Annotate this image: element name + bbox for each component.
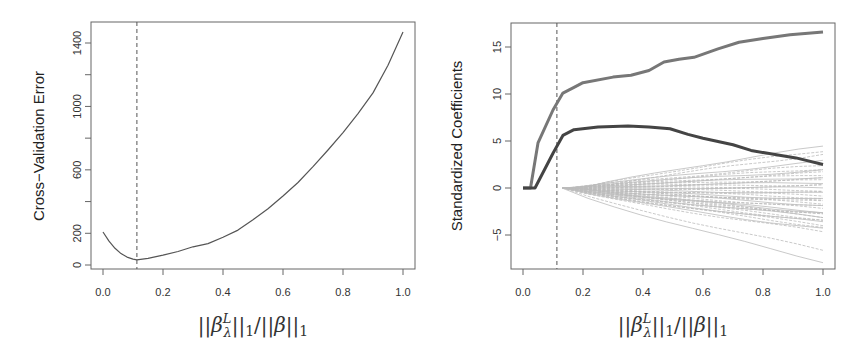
cv-error-panel: Cross−Validation Error 020060010001400 0… <box>30 22 415 340</box>
y-tick-label: 0 <box>491 185 503 191</box>
x-axis-math-label: ||βLλ||1/||β||1 <box>618 311 729 340</box>
x-tick-label: 0.2 <box>155 286 170 298</box>
y-tick-label: 15 <box>491 41 503 53</box>
x-tick-label: 1.0 <box>815 286 830 298</box>
figure: Cross−Validation Error 020060010001400 0… <box>0 0 857 358</box>
x-tick-label: 0.0 <box>515 286 530 298</box>
x-axis-left: 0.00.20.40.60.81.0 <box>95 269 410 298</box>
x-axis-title-right: ||βLλ||1/||β||1 <box>618 311 729 340</box>
x-axis-math-label: ||βLλ||1/||β||1 <box>198 311 309 340</box>
x-tick-label: 0.4 <box>215 286 230 298</box>
x-axis-title-left: ||βLλ||1/||β||1 <box>198 311 309 340</box>
x-tick-label: 0.6 <box>275 286 290 298</box>
x-tick-label: 0.2 <box>575 286 590 298</box>
y-tick-label: 0 <box>71 262 83 268</box>
y-axis-title-right: Standardized Coefficients <box>448 61 465 232</box>
x-axis-right: 0.00.20.40.60.81.0 <box>515 269 830 298</box>
x-tick-label: 0.6 <box>695 286 710 298</box>
y-tick-label: 600 <box>71 161 83 179</box>
series-path <box>103 32 403 260</box>
y-axis-right: −5051015 <box>491 41 511 241</box>
y-tick-label: 1000 <box>71 94 83 118</box>
x-tick-label: 1.0 <box>395 286 410 298</box>
x-tick-label: 0.0 <box>95 286 110 298</box>
y-tick-label: 1400 <box>71 31 83 55</box>
coefficient-path-panel: Standardized Coefficients −5051015 0.00.… <box>448 23 835 340</box>
x-tick-label: 0.4 <box>635 286 650 298</box>
y-tick-label: 200 <box>71 224 83 242</box>
y-tick-label: −5 <box>491 229 503 242</box>
x-tick-label: 0.8 <box>755 286 770 298</box>
y-axis-title-left: Cross−Validation Error <box>30 71 47 221</box>
noise-coefficient-paths <box>562 146 823 263</box>
series-path <box>523 32 823 188</box>
noise-path <box>562 188 823 250</box>
plot-frame-left <box>91 22 415 269</box>
y-tick-label: 10 <box>491 88 503 100</box>
cv-error-curve <box>103 32 403 260</box>
x-tick-label: 0.8 <box>335 286 350 298</box>
signal-coefficient-paths <box>523 32 823 188</box>
y-tick-label: 5 <box>491 138 503 144</box>
y-axis-left: 020060010001400 <box>71 31 91 268</box>
